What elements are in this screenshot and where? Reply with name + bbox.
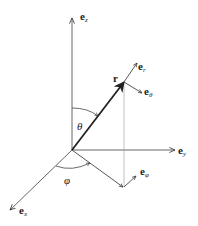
label-phi: φ [64, 174, 70, 186]
label-e-y: ey [178, 144, 187, 158]
label-e-r: er [138, 60, 146, 74]
e-r-vector [124, 63, 137, 82]
label-e-theta: eθ [144, 85, 153, 99]
label-theta: θ [77, 120, 83, 132]
phi-arc [56, 163, 90, 168]
theta-arc [72, 108, 98, 116]
label-e-phi: eφ [140, 165, 149, 179]
e-theta-vector [124, 82, 142, 93]
x-axis [10, 150, 72, 210]
label-e-x: ex [19, 204, 28, 218]
e-phi-vector [124, 176, 136, 187]
projection-xy [72, 150, 123, 187]
label-e-z: ez [80, 10, 88, 24]
spherical-coordinates-diagram: ez ey ex r er eθ eφ θ φ [0, 0, 198, 226]
label-r: r [113, 72, 118, 84]
